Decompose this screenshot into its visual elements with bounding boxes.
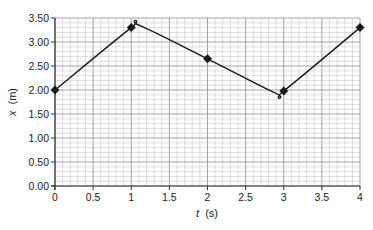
x-axis-label: t (s) [196, 207, 218, 219]
x-tick-label: 4 [357, 191, 363, 203]
y-tick-label: 2.50 [29, 60, 50, 72]
y-axis-var: x [6, 110, 18, 117]
x-axis-unit: (s) [205, 207, 218, 219]
y-tick-label: 0.50 [29, 156, 50, 168]
x-tick-label: 1.5 [162, 191, 177, 203]
y-tick-labels: 0.000.501.001.502.002.503.003.50 [29, 12, 55, 192]
diamond-marker-icon [203, 54, 212, 63]
position-time-chart: 0.000.501.001.502.002.503.003.50 00.511.… [0, 0, 373, 230]
x-tick-label: 3 [281, 191, 287, 203]
x-tick-labels: 00.511.522.533.54 [52, 186, 363, 203]
y-tick-label: 1.50 [29, 108, 50, 120]
x-tick-label: 3.5 [315, 191, 330, 203]
y-tick-label: 0.00 [29, 180, 50, 192]
y-axis-label: x (m) [6, 88, 18, 117]
y-tick-label: 1.00 [29, 132, 50, 144]
x-tick-label: 0 [52, 191, 58, 203]
y-tick-label: 2.00 [29, 84, 50, 96]
axes [51, 18, 360, 190]
x-tick-label: 1 [128, 191, 134, 203]
x-tick-label: 2.5 [238, 191, 253, 203]
y-axis-unit: (m) [6, 88, 18, 105]
x-axis-var: t [196, 207, 200, 219]
x-tick-label: 0.5 [86, 191, 101, 203]
x-tick-label: 2 [205, 191, 211, 203]
y-tick-label: 3.50 [29, 12, 50, 24]
y-tick-label: 3.00 [29, 36, 50, 48]
